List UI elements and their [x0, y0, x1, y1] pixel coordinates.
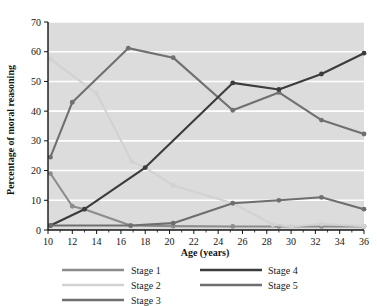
- data-point: [230, 201, 235, 206]
- data-point: [270, 222, 275, 227]
- legend-label-stage-4: Stage 4: [268, 265, 298, 276]
- data-point: [48, 171, 53, 176]
- x-tick-label: 32: [310, 236, 320, 247]
- x-tick-label: 12: [67, 236, 77, 247]
- data-point: [319, 72, 324, 77]
- data-point: [48, 223, 53, 228]
- y-tick-label: 60: [31, 46, 41, 57]
- data-point: [171, 183, 176, 188]
- x-tick-label: 16: [116, 236, 126, 247]
- y-tick-label: 0: [36, 225, 41, 236]
- data-point: [362, 51, 367, 56]
- x-tick-label: 34: [335, 236, 345, 247]
- x-tick-label: 22: [189, 236, 199, 247]
- data-point: [319, 195, 324, 200]
- data-point: [48, 155, 53, 160]
- x-tick-label: 18: [140, 236, 150, 247]
- data-point: [277, 87, 282, 92]
- data-point: [289, 224, 294, 229]
- y-tick-label: 50: [31, 76, 41, 87]
- data-point: [70, 204, 75, 209]
- plot-background: [48, 22, 364, 230]
- x-tick-label: 28: [262, 236, 272, 247]
- data-point: [126, 46, 131, 51]
- data-point: [48, 57, 53, 62]
- data-point: [94, 91, 99, 96]
- data-point: [70, 100, 75, 105]
- x-tick-label: 36: [359, 236, 369, 247]
- data-point: [171, 55, 176, 60]
- data-point: [129, 159, 134, 164]
- x-tick-label: 10: [43, 236, 53, 247]
- data-point: [319, 222, 324, 227]
- legend-label-stage-2: Stage 2: [131, 280, 161, 291]
- y-tick-label: 10: [31, 195, 41, 206]
- x-tick-label: 30: [286, 236, 296, 247]
- y-tick-label: 30: [31, 135, 41, 146]
- y-tick-label: 40: [31, 106, 41, 117]
- y-axis-label: Percentage of moral reasoning: [5, 65, 16, 195]
- data-point: [362, 224, 367, 229]
- data-point: [277, 198, 282, 203]
- legend-label-stage-1: Stage 1: [131, 265, 161, 276]
- chart-figure: 010203040506070 101214161820222426283032…: [0, 0, 377, 306]
- data-point: [143, 165, 148, 170]
- data-point: [128, 223, 133, 228]
- legend-label-stage-3: Stage 3: [131, 295, 161, 306]
- x-tick-label: 20: [165, 236, 175, 247]
- data-point: [362, 132, 367, 137]
- x-tick-label: 14: [92, 236, 102, 247]
- data-point: [319, 118, 324, 123]
- data-point: [362, 207, 367, 212]
- data-point: [230, 224, 235, 229]
- data-point: [82, 207, 87, 212]
- plot-area: [48, 22, 364, 230]
- data-point: [230, 108, 235, 113]
- moral-reasoning-line-chart: 010203040506070 101214161820222426283032…: [0, 0, 377, 306]
- data-point: [230, 81, 235, 86]
- data-point: [171, 221, 176, 226]
- x-tick-label: 24: [213, 236, 223, 247]
- y-tick-label: 20: [31, 165, 41, 176]
- x-axis-label: Age (years): [181, 247, 230, 259]
- x-tick-label: 26: [237, 236, 247, 247]
- y-tick-label: 70: [31, 17, 41, 28]
- legend-label-stage-5: Stage 5: [268, 280, 298, 291]
